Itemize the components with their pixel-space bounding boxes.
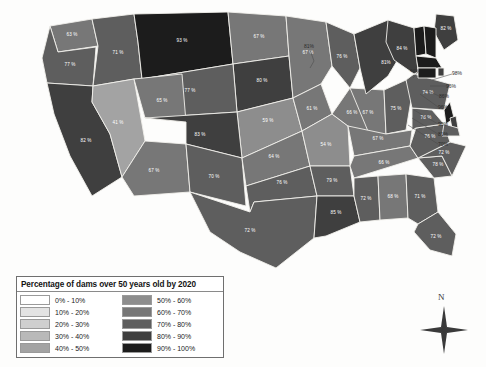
state-value-label-ia: 61 % xyxy=(307,106,318,111)
state-value-label-wy: 77 % xyxy=(185,88,196,93)
legend-label: 10% - 20% xyxy=(55,309,89,316)
state-ma xyxy=(416,56,442,68)
state-value-label-nd: 67 % xyxy=(254,34,265,39)
state-value-label-oh: 75 % xyxy=(391,106,402,111)
legend-row: 40% - 50% xyxy=(20,343,118,353)
legend-column-left: 0% - 10%10% - 20%20% - 30%30% - 40%40% -… xyxy=(20,295,118,353)
legend-row: 60% - 70% xyxy=(122,307,220,317)
legend-row: 20% - 30% xyxy=(20,319,118,329)
state-value-label-tn: 66 % xyxy=(379,160,390,165)
state-value-label-ks: 64 % xyxy=(269,154,280,159)
state-value-label-ny: 84 % xyxy=(397,46,408,51)
legend-swatch xyxy=(20,319,50,329)
callout-label-de: 81% xyxy=(438,131,449,137)
state-me xyxy=(434,14,458,50)
state-value-label-co: 83 % xyxy=(195,132,206,137)
state-nh xyxy=(424,26,436,58)
callout-label-mi: 81% xyxy=(304,43,315,49)
legend-label: 0% - 10% xyxy=(55,297,85,304)
state-value-label-nc: 72 % xyxy=(439,150,450,155)
state-value-label-or: 77 % xyxy=(65,62,76,67)
legend-swatch xyxy=(122,295,152,305)
legend-label: 30% - 40% xyxy=(55,333,89,340)
callout-label-vt: 94% xyxy=(410,68,419,73)
legend-label: 50% - 60% xyxy=(157,297,191,304)
state-value-label-az: 67 % xyxy=(149,168,160,173)
map-figure: 63 %77 %71 %93 %67 %80 %77 %59 %67 %61 %… xyxy=(0,0,486,367)
state-value-label-sd: 80 % xyxy=(257,78,268,83)
us-choropleth-map: 63 %77 %71 %93 %67 %80 %77 %59 %67 %61 %… xyxy=(14,6,474,274)
legend-row: 0% - 10% xyxy=(20,295,118,305)
legend-swatch xyxy=(122,307,152,317)
legend-label: 80% - 90% xyxy=(157,333,191,340)
state-value-label-ne: 59 % xyxy=(263,118,274,123)
state-value-label-ar: 79 % xyxy=(327,178,338,183)
legend-swatch xyxy=(20,331,50,341)
legend-column-right: 50% - 60%60% - 70%70% - 80%80% - 90%90% … xyxy=(122,295,220,353)
state-value-label-sc: 78 % xyxy=(433,162,444,167)
state-value-label-in: 67 % xyxy=(363,110,374,115)
state-value-label-ut: 65 % xyxy=(157,98,168,103)
callout-label-md: 70% xyxy=(438,141,449,147)
callout-label-ma: 96% xyxy=(446,83,457,89)
callout-label-ct: 96% xyxy=(438,104,449,110)
state-mn xyxy=(286,16,332,98)
state-ri xyxy=(438,68,444,76)
state-value-label-il: 66 % xyxy=(347,110,358,115)
state-value-label-mo: 54 % xyxy=(321,142,332,147)
state-value-label-al: 68 % xyxy=(388,194,399,199)
callout-label-ri: 86% xyxy=(439,93,450,99)
legend-row: 30% - 40% xyxy=(20,331,118,341)
state-value-label-ok: 76 % xyxy=(277,180,288,185)
callout-label-nj: 90% xyxy=(438,121,449,127)
state-value-label-ca: 82 % xyxy=(81,138,92,143)
state-value-label-nm: 70 % xyxy=(209,174,220,179)
state-value-label-nv: 41 % xyxy=(113,120,124,125)
state-value-label-wa: 63 % xyxy=(67,32,78,37)
state-value-label-ms: 72 % xyxy=(361,196,372,201)
legend-swatch xyxy=(20,295,50,305)
legend-swatch xyxy=(122,331,152,341)
legend-row: 70% - 80% xyxy=(122,319,220,329)
state-ct xyxy=(418,68,436,78)
legend-row: 10% - 20% xyxy=(20,307,118,317)
state-value-label-mt: 93 % xyxy=(177,38,188,43)
compass-rose: N xyxy=(418,292,470,356)
state-value-label-wi: 76 % xyxy=(337,54,348,59)
legend-row: 50% - 60% xyxy=(122,295,220,305)
legend-swatch xyxy=(122,319,152,329)
legend-swatch xyxy=(20,307,50,317)
legend-row: 80% - 90% xyxy=(122,331,220,341)
legend-label: 70% - 80% xyxy=(157,321,191,328)
legend-label: 60% - 70% xyxy=(157,309,191,316)
state-value-label-tx: 72 % xyxy=(245,228,256,233)
legend-label: 20% - 30% xyxy=(55,321,89,328)
legend-swatch xyxy=(122,343,152,353)
state-value-label-mi: 81% xyxy=(381,60,391,65)
compass-north-label: N xyxy=(438,292,445,302)
legend-label: 40% - 50% xyxy=(55,345,89,352)
state-value-label-ga: 71 % xyxy=(415,194,426,199)
compass-star-icon xyxy=(418,304,470,356)
map-legend: Percentage of dams over 50 years old by … xyxy=(16,276,224,358)
state-value-label-id: 71 % xyxy=(113,50,124,55)
legend-swatch xyxy=(20,343,50,353)
state-value-label-ky: 67 % xyxy=(373,136,384,141)
legend-title: Percentage of dams over 50 years old by … xyxy=(17,277,223,292)
state-value-label-la: 85 % xyxy=(331,210,342,215)
legend-row: 90% - 100% xyxy=(122,343,220,353)
state-value-label-me: 82 % xyxy=(441,26,452,31)
callout-label-nh: 98% xyxy=(452,70,463,76)
legend-label: 90% - 100% xyxy=(157,345,195,352)
state-value-label-fl: 72 % xyxy=(431,234,442,239)
state-la xyxy=(314,196,360,238)
